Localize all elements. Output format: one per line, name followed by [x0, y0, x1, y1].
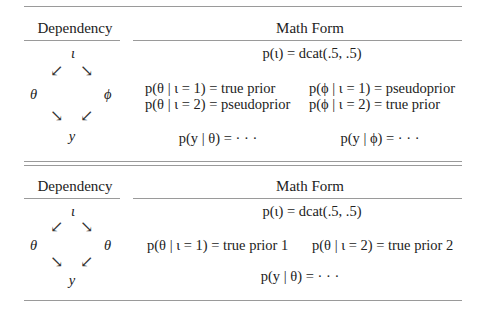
- table1-likelihood-theta: p(y | θ) = · · ·: [179, 130, 257, 146]
- table2-likelihood: p(y | θ) = · · ·: [261, 268, 339, 284]
- table1-phi-prior-1: p(ϕ | ι = 1) = pseudoprior: [309, 80, 455, 96]
- node-y: y: [69, 128, 75, 144]
- table2-theta-prior-2: p(θ | ι = 2) = true prior 2: [312, 237, 453, 253]
- table1-header-dependency: Dependency: [38, 20, 113, 36]
- node-iota: ι: [71, 45, 75, 61]
- table2-theta-prior-1: p(θ | ι = 1) = true prior 1: [147, 237, 288, 253]
- table2-header-math-form: Math Form: [276, 178, 344, 194]
- table2-header-underline-right: [133, 198, 462, 199]
- node-theta-right: θ: [104, 237, 111, 253]
- arrow-down-right-icon: ↘: [80, 63, 93, 79]
- arrow-down-right-icon: ↘: [50, 254, 63, 270]
- table1-phi-prior-2: p(ϕ | ι = 2) = true prior: [309, 96, 440, 112]
- node-iota: ι: [71, 203, 75, 219]
- table2-prior-index: p(ι) = dcat(.5, .5): [262, 203, 361, 219]
- table1-likelihood-phi: p(y | ϕ) = · · ·: [340, 130, 419, 146]
- table1-top-rule: [24, 6, 462, 7]
- node-phi: ϕ: [104, 86, 112, 102]
- separator-rule-top: [24, 161, 462, 162]
- table1-header-underline-left: [24, 40, 120, 41]
- table1-theta-prior-1: p(θ | ι = 1) = true prior: [145, 80, 275, 96]
- arrow-down-left-icon: ↙: [80, 108, 93, 124]
- table1-header-math-form: Math Form: [276, 20, 344, 36]
- table1-prior-index: p(ι) = dcat(.5, .5): [262, 45, 361, 61]
- table2-header-dependency: Dependency: [38, 178, 113, 194]
- arrow-down-left-icon: ↙: [50, 63, 63, 79]
- separator-rule-bottom: [24, 165, 462, 166]
- table1-header-underline-right: [133, 40, 462, 41]
- node-theta-left: θ: [30, 237, 37, 253]
- table2-header-underline-left: [24, 198, 120, 199]
- arrow-down-right-icon: ↘: [80, 219, 93, 235]
- node-theta: θ: [30, 86, 37, 102]
- table2-bottom-rule: [24, 300, 462, 301]
- table1-theta-prior-2: p(θ | ι = 2) = pseudoprior: [145, 96, 290, 112]
- arrow-down-left-icon: ↙: [50, 219, 63, 235]
- node-y: y: [69, 272, 75, 288]
- arrow-down-right-icon: ↘: [50, 108, 63, 124]
- arrow-down-left-icon: ↙: [80, 254, 93, 270]
